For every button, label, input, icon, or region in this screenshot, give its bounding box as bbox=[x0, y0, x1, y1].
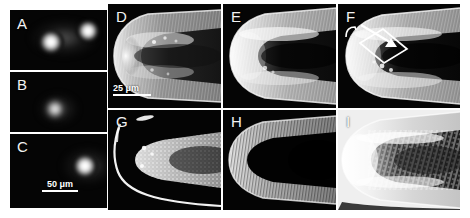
panel-f[interactable]: F bbox=[338, 4, 460, 108]
separator-a-b bbox=[10, 70, 107, 72]
panel-h-image bbox=[223, 110, 336, 210]
figure-root: A B C 50 μm bbox=[0, 0, 470, 218]
scalebar-50um-text: 50 μm bbox=[47, 179, 73, 189]
panel-f-image bbox=[338, 4, 460, 108]
separator-d-e bbox=[221, 4, 223, 210]
scalebar-50um: 50 μm bbox=[34, 180, 86, 192]
panel-c-spot-1 bbox=[72, 154, 98, 178]
panel-b[interactable]: B bbox=[10, 72, 107, 132]
panel-a-spot-1 bbox=[38, 30, 64, 54]
panel-a-label: A bbox=[17, 16, 28, 31]
panel-i-image bbox=[338, 110, 460, 210]
panel-h[interactable]: H bbox=[223, 110, 336, 210]
scalebar-50um-bar bbox=[42, 190, 78, 192]
separator-row bbox=[108, 108, 460, 110]
panel-d[interactable]: D 25 μm bbox=[108, 4, 221, 108]
panel-g-image bbox=[108, 110, 221, 210]
panel-e[interactable]: E bbox=[223, 4, 336, 108]
separator-e-f bbox=[336, 4, 338, 210]
panel-e-image bbox=[223, 4, 336, 108]
panel-g[interactable]: G bbox=[108, 110, 221, 210]
panel-b-label: B bbox=[17, 77, 28, 92]
panel-b-spot-1 bbox=[44, 98, 66, 120]
panel-a[interactable]: A bbox=[10, 10, 107, 70]
panel-a-spot-2 bbox=[76, 20, 100, 42]
panel-c[interactable]: C 50 μm bbox=[10, 134, 107, 208]
panel-c-label: C bbox=[17, 139, 28, 154]
separator-b-c bbox=[10, 132, 107, 134]
scalebar-25um-text: 25 μm bbox=[113, 83, 139, 93]
scalebar-25um-bar bbox=[113, 94, 151, 96]
scalebar-25um: 25 μm bbox=[113, 84, 161, 96]
panel-i[interactable]: I bbox=[338, 110, 460, 210]
